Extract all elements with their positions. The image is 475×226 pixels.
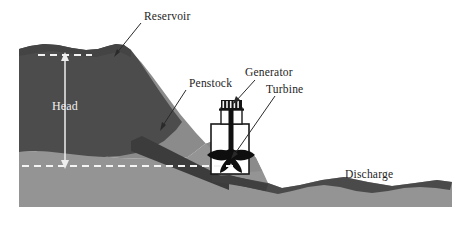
generator-unit — [219, 100, 244, 111]
reservoir-label: Reservoir — [144, 10, 191, 22]
penstock-label: Penstock — [189, 77, 232, 89]
head-label: Head — [52, 99, 78, 113]
generator-fin-1 — [223, 101, 225, 108]
generator-label: Generator — [245, 66, 293, 78]
generator-fin-2 — [226, 101, 228, 108]
generator-fin-3 — [230, 101, 232, 108]
generator-fin-5 — [237, 101, 239, 108]
hydroelectric-diagram: Head Reservoir Penstock Generator Turbin… — [0, 0, 475, 226]
discharge-label: Discharge — [345, 168, 393, 181]
diagram-canvas: Head Reservoir Penstock Generator Turbin… — [0, 0, 475, 226]
turbine-shaft — [229, 110, 234, 154]
turbine-label: Turbine — [266, 83, 303, 95]
